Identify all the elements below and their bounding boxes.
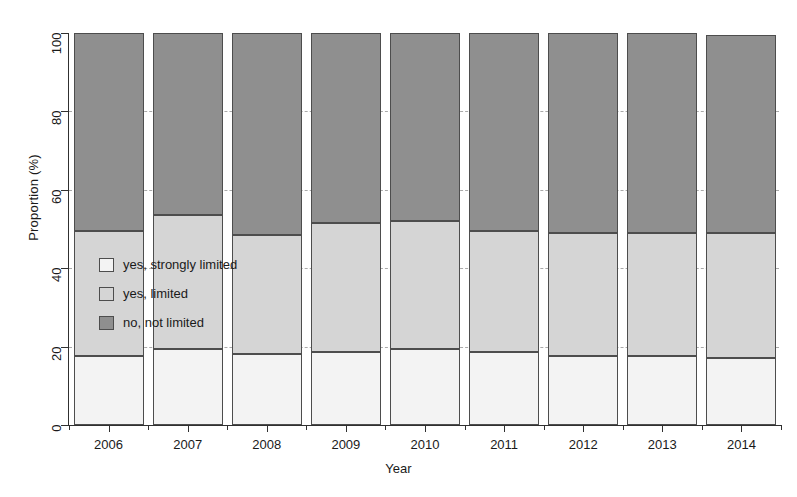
bar-segment-2013-yes-limited[interactable] (627, 233, 697, 356)
x-minor-tick-9 (781, 425, 782, 430)
x-minor-tick-4 (385, 425, 386, 430)
x-tick-label-2008: 2008 (227, 437, 307, 452)
bar-group-2011[interactable] (469, 33, 539, 425)
x-minor-tick-8 (702, 425, 703, 430)
x-tick-label-2007: 2007 (148, 437, 228, 452)
stacked-bar-chart-figure: Proportion (%) 020406080100 200620072008… (0, 0, 797, 497)
x-tick-label-2013: 2013 (622, 437, 702, 452)
chart-legend: yes, strongly limitedyes, limitedno, not… (99, 250, 274, 337)
y-tick-label-100: 100 (49, 33, 64, 71)
x-tick-label-2014: 2014 (701, 437, 781, 452)
x-tick-label-2009: 2009 (306, 437, 386, 452)
x-tick-2013 (662, 425, 663, 432)
y-tick-label-20: 20 (49, 346, 64, 384)
bar-group-2013[interactable] (627, 33, 697, 425)
bar-segment-2012-yes-limited[interactable] (548, 233, 618, 356)
plot-area (69, 33, 781, 425)
legend-swatch-icon-2 (99, 316, 114, 330)
bar-group-2010[interactable] (390, 33, 460, 425)
x-tick-2006 (109, 425, 110, 432)
x-minor-tick-2 (227, 425, 228, 430)
bar-segment-2011-yes-strongly-limited[interactable] (469, 352, 539, 425)
x-axis-title: Year (0, 461, 797, 476)
bar-segment-2009-no-not-limited[interactable] (311, 33, 381, 223)
x-minor-tick-7 (623, 425, 624, 430)
bar-segment-2014-yes-strongly-limited[interactable] (706, 358, 776, 425)
bar-group-2014[interactable] (706, 33, 776, 425)
bar-segment-2010-no-not-limited[interactable] (390, 33, 460, 221)
bar-segment-2007-yes-strongly-limited[interactable] (153, 349, 223, 425)
x-tick-label-2011: 2011 (464, 437, 544, 452)
x-tick-2008 (267, 425, 268, 432)
legend-item-1[interactable]: yes, limited (99, 279, 274, 308)
y-tick-label-40: 40 (49, 268, 64, 306)
bar-group-2009[interactable] (311, 33, 381, 425)
bar-group-2008[interactable] (232, 33, 302, 425)
bar-segment-2009-yes-strongly-limited[interactable] (311, 352, 381, 425)
bar-segment-2013-yes-strongly-limited[interactable] (627, 356, 697, 425)
x-tick-label-2012: 2012 (543, 437, 623, 452)
bar-group-2012[interactable] (548, 33, 618, 425)
y-tick-label-80: 80 (49, 111, 64, 149)
bar-segment-2010-yes-limited[interactable] (390, 221, 460, 348)
legend-item-0[interactable]: yes, strongly limited (99, 250, 274, 279)
legend-swatch-icon-1 (99, 287, 114, 301)
y-axis-title: Proportion (%) (26, 113, 41, 283)
legend-label-2: no, not limited (123, 315, 204, 330)
y-tick-label-60: 60 (49, 189, 64, 227)
y-tick-label-0: 0 (49, 425, 64, 463)
x-tick-label-2010: 2010 (385, 437, 465, 452)
bar-segment-2013-no-not-limited[interactable] (627, 33, 697, 233)
bar-segment-2006-yes-strongly-limited[interactable] (74, 356, 144, 425)
legend-swatch-icon-0 (99, 258, 114, 272)
x-minor-tick-0 (69, 425, 70, 430)
bar-segment-2014-yes-limited[interactable] (706, 233, 776, 358)
bar-segment-2012-yes-strongly-limited[interactable] (548, 356, 618, 425)
bar-group-2007[interactable] (153, 33, 223, 425)
x-tick-label-2006: 2006 (69, 437, 149, 452)
bar-group-2006[interactable] (74, 33, 144, 425)
bar-segment-2014-no-not-limited[interactable] (706, 35, 776, 233)
x-tick-2007 (188, 425, 189, 432)
bar-segment-2008-no-not-limited[interactable] (232, 33, 302, 235)
bar-segment-2008-yes-strongly-limited[interactable] (232, 354, 302, 425)
bar-segment-2012-no-not-limited[interactable] (548, 33, 618, 233)
x-minor-tick-6 (544, 425, 545, 430)
x-tick-2014 (741, 425, 742, 432)
x-minor-tick-3 (306, 425, 307, 430)
x-tick-2010 (425, 425, 426, 432)
x-tick-2012 (583, 425, 584, 432)
legend-label-1: yes, limited (123, 286, 188, 301)
bar-segment-2010-yes-strongly-limited[interactable] (390, 349, 460, 425)
x-tick-2009 (346, 425, 347, 432)
x-minor-tick-5 (465, 425, 466, 430)
bar-segment-2006-no-not-limited[interactable] (74, 33, 144, 231)
legend-item-2[interactable]: no, not limited (99, 308, 274, 337)
bar-segment-2011-no-not-limited[interactable] (469, 33, 539, 231)
bar-segment-2007-no-not-limited[interactable] (153, 33, 223, 215)
x-minor-tick-1 (148, 425, 149, 430)
x-tick-2011 (504, 425, 505, 432)
bar-segment-2011-yes-limited[interactable] (469, 231, 539, 353)
bar-segment-2009-yes-limited[interactable] (311, 223, 381, 352)
legend-label-0: yes, strongly limited (123, 257, 237, 272)
